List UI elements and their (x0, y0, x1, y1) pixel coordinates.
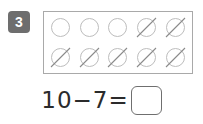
counter-crossed[interactable] (51, 48, 70, 67)
slash-icon (163, 45, 188, 70)
slash-icon (105, 45, 130, 70)
counter-crossed[interactable] (137, 18, 156, 37)
counter-open[interactable] (108, 18, 127, 37)
equation-expression: 10−7= (41, 89, 128, 112)
slash-icon (134, 15, 159, 40)
slash-icon (48, 45, 73, 70)
circle-icon (80, 18, 99, 37)
counter-open[interactable] (51, 18, 70, 37)
slash-icon (163, 15, 188, 40)
counter-grid-row (44, 12, 192, 43)
counter-crossed[interactable] (166, 48, 185, 67)
counter-crossed[interactable] (80, 48, 99, 67)
counter-crossed[interactable] (166, 18, 185, 37)
problem-number-badge: 3 (8, 11, 30, 33)
slash-icon (77, 45, 102, 70)
counter-grid-row (44, 43, 192, 74)
slash-icon (134, 45, 159, 70)
counter-crossed[interactable] (108, 48, 127, 67)
counter-grid (43, 11, 193, 74)
circle-icon (108, 18, 127, 37)
equation-row: 10−7= (0, 82, 203, 118)
counter-crossed[interactable] (137, 48, 156, 67)
circle-icon (51, 18, 70, 37)
counter-open[interactable] (80, 18, 99, 37)
answer-input-box[interactable] (131, 86, 162, 115)
